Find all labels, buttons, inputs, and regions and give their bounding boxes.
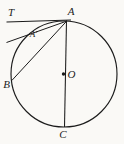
label-center-o: O: [68, 68, 76, 80]
label-point-a: A: [67, 5, 75, 17]
center-point-dot: [62, 72, 65, 75]
geometry-figure: T A A′ B O C: [0, 0, 124, 144]
chord-line-ab: [12, 21, 67, 81]
circle-diagram-canvas: T A A′ B O C: [0, 0, 124, 144]
label-point-c: C: [59, 128, 67, 140]
label-point-a-prime: A′: [29, 29, 38, 39]
label-point-t: T: [8, 6, 15, 18]
label-point-b: B: [3, 78, 10, 90]
